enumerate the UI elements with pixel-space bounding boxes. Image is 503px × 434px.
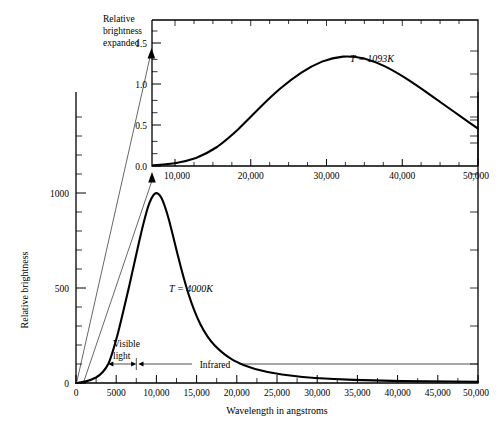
spectrum-span-annotations: Visible light Infrared [108,339,478,370]
main-ytick-label-0: 0 [64,379,69,389]
inset-plot-panel: 0.0 0.5 1.0 1.5 Relative brightness expa… [103,14,489,181]
main-xtick-labels: 0 5000 10,000 15,000 20,000 25,000 30,00… [74,388,490,398]
main-xtick-label-25000: 25,000 [264,388,290,398]
leader-arrowhead-lower [148,172,156,183]
main-plot-panel: 0 500 1000 Relative brightness [19,92,489,416]
main-y-minor-ticks [76,117,82,364]
main-ytick-label-500: 500 [55,284,70,294]
visible-light-label-line1: Visible [113,339,140,349]
inset-x-major-ticks [175,159,478,166]
inset-ytick-label-10: 1.0 [135,80,147,90]
main-y-major-ticks [76,193,86,383]
blackbody-radiation-figure: 0 500 1000 Relative brightness [0,0,503,434]
curve-4000k [76,193,478,383]
main-x-axis-title: Wavelength in angstroms [226,405,328,416]
visible-right-arrowhead [131,361,136,366]
inset-xtick-label-10000: 10,000 [164,171,190,181]
main-xtick-label-35000: 35,000 [344,388,370,398]
inset-y-axis-title: Relative brightness expanded [103,14,142,48]
inset-xtick-label-30000: 30,000 [313,171,339,181]
main-y-axis-title: Relative brightness [19,251,30,328]
inset-right-axis-ticks [470,51,478,143]
main-xtick-label-15000: 15,000 [184,388,210,398]
infrared-label: Infrared [200,360,231,370]
inset-xtick-label-50000: 50,000 [463,171,489,181]
inset-xtick-label-20000: 20,000 [238,171,264,181]
curve-1093k [153,56,478,165]
inset-y-minor-ticks [152,31,158,154]
curve-label-1093k: T = 1093K [350,53,395,64]
inset-xtick-labels: 10,000 20,000 30,000 40,000 50,000 [164,171,489,181]
main-xtick-label-30000: 30,000 [304,388,330,398]
inset-y-major-ticks [152,43,161,166]
main-xtick-label-50000: 50,000 [463,388,489,398]
inset-ylabel-line2: brightness [103,26,142,36]
inset-ylabel-line1: Relative [103,14,135,24]
curve-label-4000k: T = 4000K [169,283,214,294]
main-xtick-label-45000: 45,000 [425,388,451,398]
visible-light-label-line2: light [113,351,131,361]
inset-ylabel-line3: expanded [103,38,140,48]
inset-ytick-label-05: 0.5 [135,121,147,131]
main-xtick-label-40000: 40,000 [385,388,411,398]
main-xtick-label-5000: 5000 [107,388,126,398]
main-xtick-label-0: 0 [74,388,79,398]
main-xtick-label-20000: 20,000 [224,388,250,398]
inset-xtick-label-40000: 40,000 [389,171,415,181]
main-xtick-label-10000: 10,000 [143,388,169,398]
infrared-left-arrowhead [138,361,143,366]
inset-callout-leaders [77,48,156,381]
inset-top-axis-ticks [175,20,459,26]
inset-ytick-label-00: 0.0 [135,162,147,172]
main-ytick-label-1000: 1000 [50,189,69,199]
figure-svg: 0 500 1000 Relative brightness [0,0,503,434]
main-right-axis-ticks [470,117,478,364]
